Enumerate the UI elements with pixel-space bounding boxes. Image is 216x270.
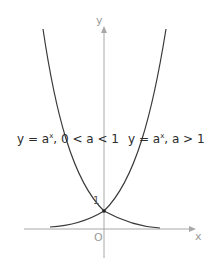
curve-decreasing-label: y = ax, 0 < a < 1 bbox=[17, 133, 119, 145]
curve-decreasing bbox=[43, 29, 160, 228]
x-axis-label: x bbox=[195, 231, 202, 242]
y-axis-label: y bbox=[96, 15, 103, 26]
label-prefix: y = a bbox=[128, 132, 160, 146]
label-condition: , 0 < a < 1 bbox=[53, 132, 119, 146]
intercept-label: 1 bbox=[93, 196, 99, 206]
label-condition: , a > 1 bbox=[164, 132, 204, 146]
curve-increasing-label: y = ax, a > 1 bbox=[128, 133, 205, 145]
y-axis-arrow-icon bbox=[101, 26, 107, 33]
label-prefix: y = a bbox=[17, 132, 49, 146]
exponential-graph: y x O 1 y = ax, 0 < a < 1 y = ax, a > 1 bbox=[0, 0, 216, 270]
curve-increasing bbox=[50, 29, 166, 227]
intersection-point bbox=[102, 209, 106, 213]
origin-label: O bbox=[94, 232, 103, 243]
